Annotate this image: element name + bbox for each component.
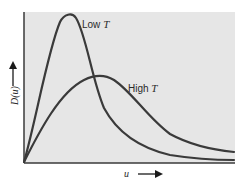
label-high-t-word: High — [128, 83, 149, 94]
label-high-t-var: T — [151, 82, 157, 94]
label-low-t: Low T — [82, 18, 109, 30]
distribution-chart — [0, 0, 242, 186]
label-low-t-word: Low — [82, 19, 100, 30]
label-high-t: High T — [128, 82, 157, 94]
y-axis-arrow-icon — [9, 61, 17, 69]
x-axis-label: u — [124, 168, 129, 179]
label-low-t-var: T — [103, 18, 109, 30]
x-axis-arrow-icon — [155, 170, 163, 178]
y-axis-label: D(u) — [9, 84, 20, 108]
